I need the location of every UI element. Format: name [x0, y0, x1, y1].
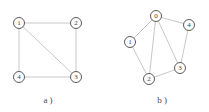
graph-b: 04132b )	[125, 11, 195, 106]
node-label: 1	[17, 19, 21, 27]
graph-edge	[161, 17, 183, 23]
graph-edge	[23, 27, 72, 73]
graph-a-edges	[19, 23, 76, 77]
graph-node-2[interactable]: 2	[144, 74, 155, 85]
node-label: 1	[128, 38, 132, 46]
graph-node-3[interactable]: 3	[175, 63, 186, 74]
graph-node-1[interactable]: 1	[125, 37, 136, 48]
graph-edge	[154, 70, 175, 77]
graph-a-caption: a )	[43, 95, 52, 105]
node-label: 4	[187, 21, 191, 29]
graph-b-caption: b )	[157, 95, 167, 105]
node-label: 2	[74, 19, 78, 27]
node-label: 3	[74, 73, 78, 81]
graph-node-1[interactable]: 1	[14, 18, 25, 29]
figure-canvas: 1234a )04132b )	[0, 0, 209, 112]
node-label: 2	[147, 75, 151, 83]
graph-edge	[133, 47, 147, 74]
graph-edge	[134, 20, 152, 38]
graph-node-4[interactable]: 4	[184, 20, 195, 31]
graph-node-2[interactable]: 2	[71, 18, 82, 29]
graph-edge	[181, 30, 188, 62]
graph-edge	[158, 21, 177, 63]
node-label: 4	[17, 73, 21, 81]
graph-node-4[interactable]: 4	[14, 72, 25, 83]
node-label: 0	[154, 12, 158, 20]
graph-figure: 1234a )04132b )	[0, 0, 209, 112]
graph-edge	[150, 21, 156, 73]
graph-node-0[interactable]: 0	[151, 11, 162, 22]
node-label: 3	[178, 64, 182, 72]
graph-a: 1234a )	[14, 18, 82, 106]
graph-node-3[interactable]: 3	[71, 72, 82, 83]
